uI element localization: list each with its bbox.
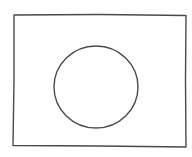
flag-rectangle <box>13 15 186 148</box>
flag-circle <box>54 46 138 128</box>
sketch-canvas <box>0 0 192 157</box>
